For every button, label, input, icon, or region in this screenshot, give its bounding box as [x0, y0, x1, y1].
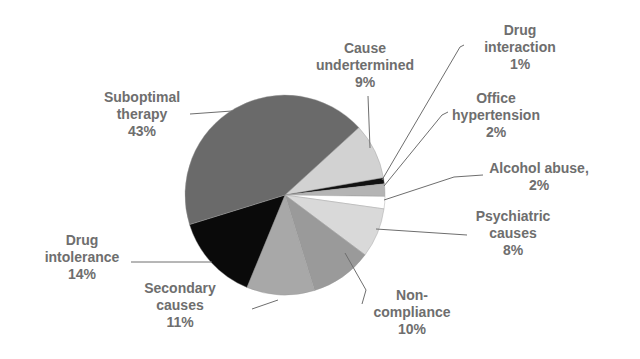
leader-line-secondary [252, 300, 278, 309]
label-alcohol-abuse: Alcohol abuse, 2% [489, 160, 589, 194]
leader-line-psychiatric [376, 229, 467, 235]
label-secondary-causes: Secondary causes 11% [144, 280, 216, 331]
leader-line-alcohol [384, 175, 483, 200]
leader-line-suboptimal [190, 111, 232, 114]
label-office-hypertension: Office hypertension 2% [452, 90, 540, 141]
label-drug-intolerance: Drug intolerance 14% [45, 232, 120, 283]
leader-line-office [384, 112, 448, 186]
label-psychiatric-causes: Psychiatric causes 8% [476, 208, 551, 259]
pie-slices [185, 95, 385, 295]
label-suboptimal-therapy: Suboptimal therapy 43% [104, 89, 180, 140]
label-drug-interaction: Drug interaction 1% [484, 22, 556, 73]
label-non-compliance: Non- compliance 10% [373, 287, 450, 338]
label-cause-undetermined: Cause undertermined 9% [316, 40, 414, 91]
